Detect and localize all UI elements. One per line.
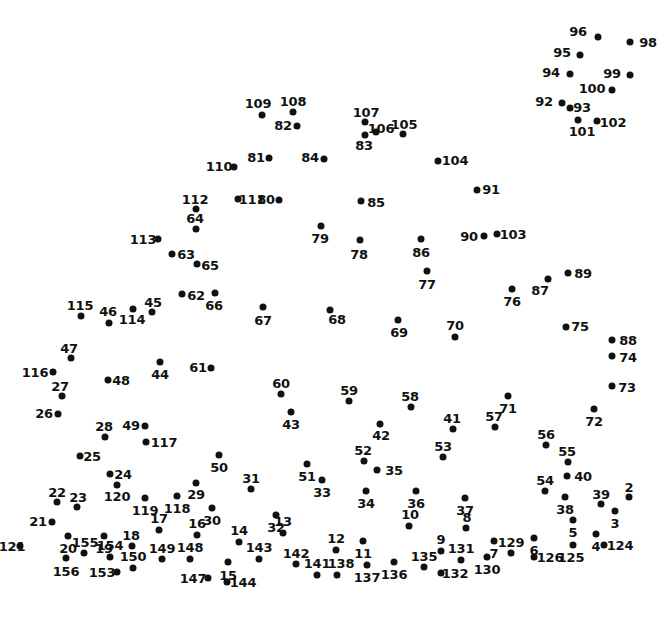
dot-36 <box>413 488 420 495</box>
dot-label-121: 121 <box>0 540 25 553</box>
dot-56 <box>543 442 550 449</box>
dot-label-92: 92 <box>535 95 553 108</box>
dot-13 <box>280 530 287 537</box>
dot-85 <box>358 198 365 205</box>
dot-88 <box>609 337 616 344</box>
dot-10 <box>406 523 413 530</box>
dot-label-47: 47 <box>60 342 78 355</box>
dot-label-129: 129 <box>498 536 525 549</box>
dot-label-95: 95 <box>553 46 571 59</box>
dot-58 <box>408 404 415 411</box>
dot-95 <box>577 52 584 59</box>
dot-87 <box>545 276 552 283</box>
dot-136 <box>391 559 398 566</box>
dot-label-10: 10 <box>401 508 419 521</box>
dot-label-81: 81 <box>247 151 265 164</box>
dot-116 <box>50 369 57 376</box>
dot-54 <box>542 488 549 495</box>
dot-84 <box>321 156 328 163</box>
dot-label-136: 136 <box>381 568 408 581</box>
dot-label-77: 77 <box>418 278 436 291</box>
dot-17 <box>156 527 163 534</box>
dot-11 <box>360 538 367 545</box>
dot-label-61: 61 <box>189 361 207 374</box>
dot-label-149: 149 <box>149 542 176 555</box>
dot-label-107: 107 <box>353 106 380 119</box>
dot-label-100: 100 <box>579 82 606 95</box>
dot-label-117: 117 <box>151 436 178 449</box>
dot-5 <box>570 517 577 524</box>
dot-119 <box>142 495 149 502</box>
dot-label-86: 86 <box>412 246 430 259</box>
dot-label-116: 116 <box>22 366 49 379</box>
dot-label-43: 43 <box>282 418 300 431</box>
dot-label-56: 56 <box>537 428 555 441</box>
dot-label-59: 59 <box>340 384 358 397</box>
dot-label-88: 88 <box>619 334 637 347</box>
dot-98 <box>627 39 634 46</box>
dot-label-113: 113 <box>130 233 157 246</box>
dot-27 <box>59 393 66 400</box>
dot-label-150: 150 <box>120 550 147 563</box>
dot-63 <box>169 251 176 258</box>
dot-92 <box>559 100 566 107</box>
dot-99 <box>627 72 634 79</box>
dot-3 <box>612 508 619 515</box>
dot-37 <box>462 495 469 502</box>
dot-71 <box>505 393 512 400</box>
dot-label-46: 46 <box>99 305 117 318</box>
dot-label-87: 87 <box>531 284 549 297</box>
dot-86 <box>418 236 425 243</box>
dot-104 <box>435 158 442 165</box>
dot-34 <box>363 488 370 495</box>
dot-label-35: 35 <box>385 464 403 477</box>
dot-label-62: 62 <box>187 289 205 302</box>
dot-31 <box>248 486 255 493</box>
dot-81 <box>266 155 273 162</box>
dot-120 <box>114 482 121 489</box>
dot-label-103: 103 <box>500 228 527 241</box>
dot-64 <box>193 226 200 233</box>
dot-label-11: 11 <box>354 547 372 560</box>
dot-label-94: 94 <box>542 66 560 79</box>
dot-label-112: 112 <box>182 193 209 206</box>
dot-label-96: 96 <box>569 25 587 38</box>
dot-label-5: 5 <box>569 526 578 539</box>
dot-label-72: 72 <box>585 415 603 428</box>
dot-label-115: 115 <box>67 299 94 312</box>
dot-label-57: 57 <box>485 410 503 423</box>
dot-53 <box>440 454 447 461</box>
dot-label-13: 13 <box>274 515 292 528</box>
dot-33 <box>319 477 326 484</box>
dot-21 <box>49 519 56 526</box>
dot-label-65: 65 <box>201 259 219 272</box>
dot-label-52: 52 <box>354 444 372 457</box>
dot-label-48: 48 <box>112 374 130 387</box>
dot-72 <box>591 406 598 413</box>
dot-label-68: 68 <box>328 313 346 326</box>
dot-154 <box>107 554 114 561</box>
dot-41 <box>450 426 457 433</box>
dot-label-108: 108 <box>280 95 307 108</box>
dot-label-89: 89 <box>574 267 592 280</box>
dot-9 <box>438 548 445 555</box>
dot-23 <box>74 504 81 511</box>
dot-4 <box>593 531 600 538</box>
dot-label-85: 85 <box>367 196 385 209</box>
dot-67 <box>260 304 267 311</box>
dot-label-54: 54 <box>536 474 554 487</box>
dot-52 <box>361 458 368 465</box>
dot-51 <box>304 461 311 468</box>
dot-12 <box>333 547 340 554</box>
dot-label-25: 25 <box>83 450 101 463</box>
dot-118 <box>174 493 181 500</box>
dot-149 <box>159 556 166 563</box>
dot-14 <box>236 539 243 546</box>
dot-69 <box>395 317 402 324</box>
dot-label-49: 49 <box>122 419 140 432</box>
dot-96 <box>595 34 602 41</box>
dot-label-69: 69 <box>390 326 408 339</box>
dot-61 <box>208 365 215 372</box>
dot-label-9: 9 <box>437 533 446 546</box>
dot-label-8: 8 <box>463 511 472 524</box>
